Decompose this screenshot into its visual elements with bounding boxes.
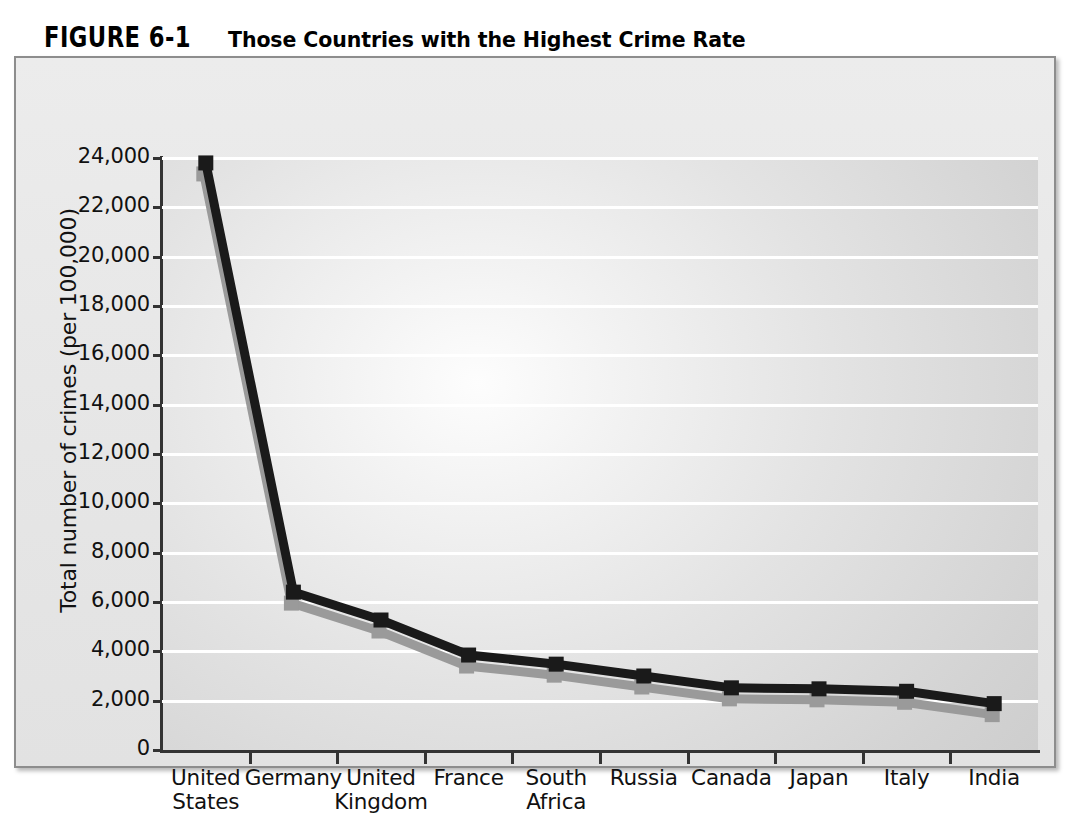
- page-title: Those Countries with the Highest Crime R…: [228, 28, 745, 52]
- gridline: [162, 552, 1038, 555]
- x-tick-mark: [249, 751, 252, 764]
- y-tick-label: 0: [40, 736, 150, 760]
- gridline: [162, 601, 1038, 604]
- gridline: [162, 157, 1038, 160]
- y-tick-mark: [153, 354, 162, 357]
- x-tick-mark: [599, 751, 602, 764]
- gridline: [162, 354, 1038, 357]
- figure-number: FIGURE 6-1: [44, 20, 191, 53]
- y-tick-mark: [153, 157, 162, 160]
- y-tick-mark: [153, 453, 162, 456]
- y-tick-mark: [153, 404, 162, 407]
- x-tick-mark: [862, 751, 865, 764]
- gridline: [162, 206, 1038, 209]
- gridline: [162, 650, 1038, 653]
- x-tick-mark: [949, 751, 952, 764]
- y-tick-mark: [153, 749, 162, 752]
- chart-panel: 02,0004,0006,0008,00010,00012,00014,0001…: [14, 56, 1056, 768]
- gridline: [162, 502, 1038, 505]
- x-tick-mark: [774, 751, 777, 764]
- figure-title-bar: FIGURE 6-1Those Countries with the Highe…: [44, 22, 1044, 54]
- y-axis-title: Total number of crimes (per 100,000): [56, 131, 81, 691]
- y-tick-mark: [153, 650, 162, 653]
- y-tick-mark: [153, 552, 162, 555]
- x-tick-mark: [511, 751, 514, 764]
- gridline: [162, 256, 1038, 259]
- gridline: [162, 453, 1038, 456]
- x-tick-mark: [336, 751, 339, 764]
- y-tick-mark: [153, 305, 162, 308]
- x-tick-mark: [424, 751, 427, 764]
- y-tick-mark: [153, 502, 162, 505]
- x-tick-mark: [687, 751, 690, 764]
- gridline: [162, 404, 1038, 407]
- y-tick-mark: [153, 206, 162, 209]
- y-tick-mark: [153, 601, 162, 604]
- gridline: [162, 305, 1038, 308]
- x-axis-label: India: [942, 766, 1046, 790]
- y-tick-mark: [153, 256, 162, 259]
- gridline: [162, 700, 1038, 703]
- y-tick-mark: [153, 700, 162, 703]
